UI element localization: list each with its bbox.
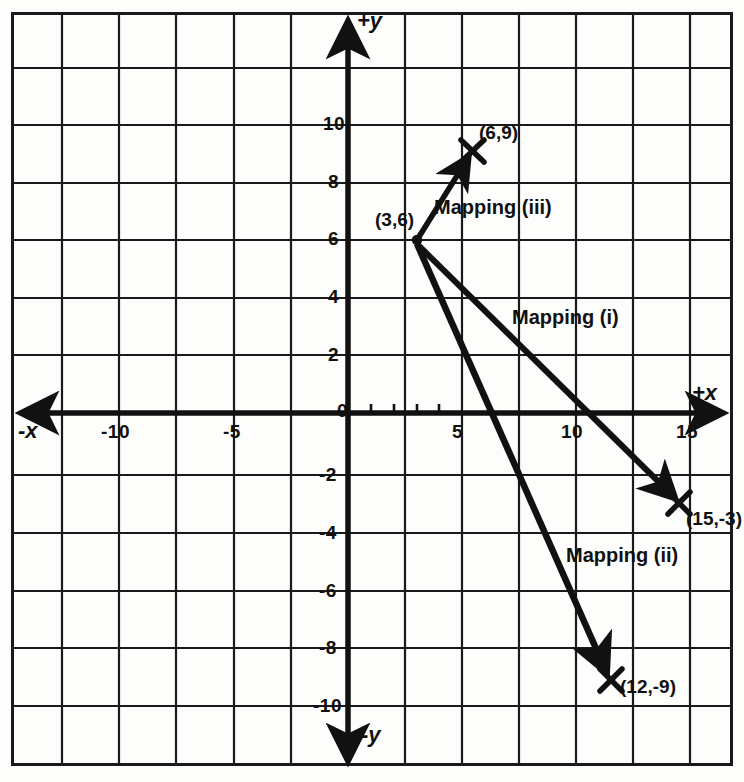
point-marker-source bbox=[412, 235, 422, 245]
y-tick-label--10: -10 bbox=[313, 695, 342, 717]
x-tick-label--5: -5 bbox=[223, 421, 241, 443]
y-tick-label-8: 8 bbox=[328, 171, 339, 193]
x-axis-positive-label: +x bbox=[692, 380, 717, 406]
x-tick-label--10: -10 bbox=[101, 421, 130, 443]
y-tick-label--8: -8 bbox=[319, 637, 337, 659]
point-label-6-9: (6,9) bbox=[479, 122, 518, 144]
x-tick-label-5: 5 bbox=[452, 421, 463, 443]
y-tick-label-10: 10 bbox=[323, 113, 345, 135]
coordinate-grid-svg bbox=[0, 0, 744, 782]
vector-mapping-i bbox=[417, 244, 674, 497]
annotation-mapping-iii: Mapping (iii) bbox=[434, 196, 552, 219]
annotation-mapping-ii: Mapping (ii) bbox=[566, 544, 678, 567]
point-label-source: (3,6) bbox=[375, 209, 414, 231]
y-tick-label--6: -6 bbox=[319, 580, 337, 602]
y-tick-label-6: 6 bbox=[328, 228, 339, 250]
point-label-12--9: (12,-9) bbox=[620, 676, 676, 698]
point-label-15--3: (15,-3) bbox=[686, 508, 742, 530]
graph-canvas: +y -y +x -x 0 -10 -5 5 10 15 10 8 6 4 2 … bbox=[0, 0, 744, 782]
x-axis-negative-label: -x bbox=[18, 418, 38, 444]
y-tick-label-2: 2 bbox=[328, 344, 339, 366]
axis-tick-origin: 0 bbox=[337, 400, 348, 422]
grid-frame bbox=[13, 14, 732, 765]
y-tick-label--2: -2 bbox=[319, 464, 337, 486]
y-axis-positive-label: +y bbox=[357, 8, 382, 34]
grid-lines-horizontal bbox=[13, 68, 731, 706]
x-tick-label-10: 10 bbox=[561, 421, 583, 443]
x-tick-label-15: 15 bbox=[676, 421, 698, 443]
point-marker-12-neg9 bbox=[600, 669, 622, 691]
y-tick-label-4: 4 bbox=[328, 286, 339, 308]
y-tick-label--4: -4 bbox=[319, 522, 337, 544]
y-axis-negative-label: -y bbox=[361, 722, 381, 748]
annotation-mapping-i: Mapping (i) bbox=[512, 306, 619, 329]
